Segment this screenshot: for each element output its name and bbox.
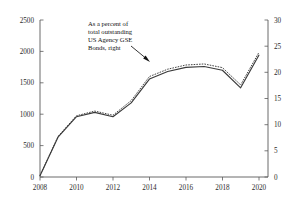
right-axis-tick-0: 0 <box>274 174 278 182</box>
chart-background <box>0 0 300 206</box>
left-axis-tick-1500: 1500 <box>20 79 35 87</box>
left-axis-tick-1000: 1000 <box>20 111 35 119</box>
right-axis-tick-30: 30 <box>274 17 282 25</box>
x-axis-tick-2016: 2016 <box>179 184 194 192</box>
x-axis-tick-2014: 2014 <box>142 184 157 192</box>
chart-figure: 0 500 1000 1500 2000 2500 0 5 10 15 20 2… <box>0 0 300 206</box>
x-axis-tick-2008: 2008 <box>33 184 48 192</box>
left-axis-tick-500: 500 <box>23 142 34 150</box>
x-axis-tick-2018: 2018 <box>215 184 230 192</box>
right-axis-tick-10: 10 <box>274 121 282 129</box>
x-axis-tick-2012: 2012 <box>106 184 121 192</box>
callout-line-3: US Agency GSE <box>88 36 132 43</box>
left-axis-tick-2000: 2000 <box>20 48 35 56</box>
right-axis-tick-5: 5 <box>274 147 278 155</box>
right-axis-tick-25: 25 <box>274 43 282 51</box>
left-axis-tick-2500: 2500 <box>20 17 35 25</box>
callout-line-4: Bonds, right <box>88 44 121 51</box>
callout-line-2: total outstanding <box>88 28 133 35</box>
left-axis-tick-0: 0 <box>30 174 34 182</box>
callout-line-1: As a percent of <box>88 20 129 27</box>
x-axis-tick-2010: 2010 <box>69 184 84 192</box>
x-axis-tick-2020: 2020 <box>252 184 267 192</box>
line-chart-svg: 0 500 1000 1500 2000 2500 0 5 10 15 20 2… <box>0 0 300 206</box>
right-axis-tick-20: 20 <box>274 69 282 77</box>
right-axis-tick-15: 15 <box>274 95 282 103</box>
